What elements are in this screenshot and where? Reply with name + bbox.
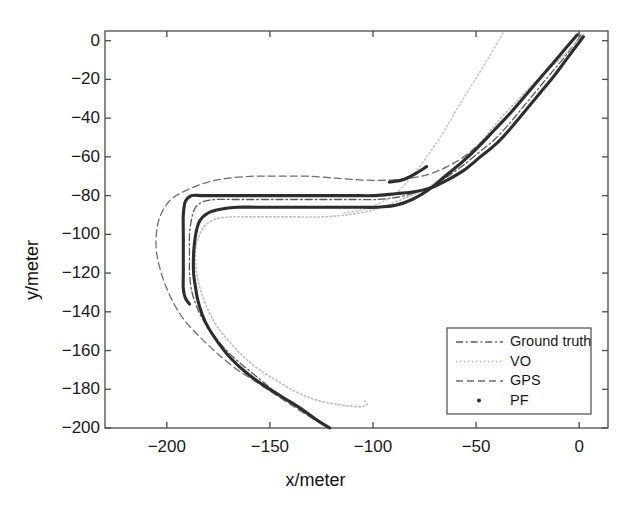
y-tick-label: −20	[46, 69, 100, 89]
y-tick-label: −120	[46, 263, 100, 283]
x-tick-label: 0	[557, 437, 601, 457]
x-axis-label: x/meter	[0, 470, 631, 491]
y-tick-label: −40	[46, 108, 100, 128]
y-tick-label: −140	[46, 302, 100, 322]
x-tick-label: −150	[248, 437, 292, 457]
y-axis-label: y/meter	[22, 240, 43, 300]
y-tick-label: −60	[46, 147, 100, 167]
legend-item-label: VO	[510, 353, 531, 369]
legend-item-label: PF	[510, 392, 529, 408]
legend-item-label: GPS	[510, 372, 541, 388]
legend-item-label: Ground truth	[510, 333, 591, 349]
trajectory-figure: x/meter y/meter −200−150−100−500 0−20−40…	[0, 0, 631, 513]
legend-marker-pf	[477, 399, 481, 403]
y-tick-label: −160	[46, 341, 100, 361]
y-tick-label: −180	[46, 379, 100, 399]
x-tick-label: −200	[145, 437, 189, 457]
x-tick-label: −50	[454, 437, 498, 457]
y-tick-label: −100	[46, 224, 100, 244]
y-tick-label: −80	[46, 186, 100, 206]
y-tick-label: 0	[46, 31, 100, 51]
y-tick-label: −200	[46, 418, 100, 438]
x-tick-label: −100	[351, 437, 395, 457]
